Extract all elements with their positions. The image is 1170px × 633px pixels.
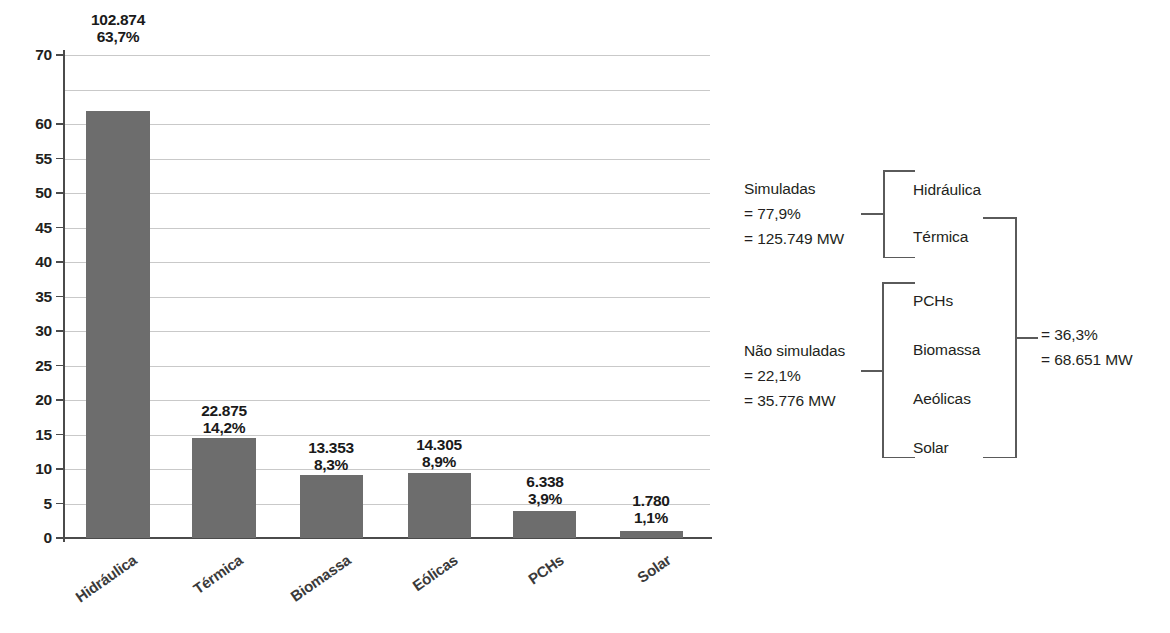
y-tick-label-0: 0: [44, 530, 52, 546]
category-label-hidraulica: Hidráulica: [24, 551, 140, 633]
leaf-label-termica: Térmica: [913, 228, 968, 246]
bar-biomassa[interactable]: [300, 475, 363, 539]
y-tick-label-5: 5: [44, 496, 52, 512]
bar-eolicas[interactable]: [408, 473, 471, 538]
bracket-total-arm-bottom: [983, 457, 1017, 459]
bracket-nao-simuladas-spine: [882, 282, 884, 458]
leaf-label-pchs: PCHs: [913, 292, 953, 310]
bar-value-pchs: 6.338: [483, 474, 607, 491]
bracket-diagram: Simuladas = 77,9% = 125.749 MW Hidráulic…: [730, 0, 1170, 633]
bar-value-hidraulica: 102.874: [56, 12, 180, 29]
bar-solar[interactable]: [620, 531, 683, 539]
bar-percent-solar: 1,1%: [589, 510, 713, 527]
y-tick-label-40: 40: [35, 254, 52, 270]
bar-value-solar: 1.780: [589, 493, 713, 510]
group-nao-simuladas-line-3: = 35.776 MW: [744, 388, 845, 413]
bar-percent-hidraulica: 63,7%: [56, 29, 180, 46]
bar-pchs[interactable]: [513, 511, 576, 539]
bar-value-eolicas: 14.305: [377, 437, 501, 454]
total-line-2: = 68.651 MW: [1041, 347, 1133, 372]
bar-value-biomassa: 13.353: [269, 440, 393, 457]
category-label-solar: Solar: [558, 551, 674, 633]
category-label-pchs: PCHs: [451, 551, 567, 633]
y-tick-label-20: 20: [35, 392, 52, 408]
y-tick-label-25: 25: [35, 358, 52, 374]
total-label: = 36,3% = 68.651 MW: [1041, 322, 1133, 372]
group-simuladas-line-1: Simuladas: [744, 176, 844, 201]
group-label-nao-simuladas: Não simuladas = 22,1% = 35.776 MW: [744, 338, 845, 413]
group-nao-simuladas-line-1: Não simuladas: [744, 338, 845, 363]
y-tick-label-30: 30: [35, 323, 52, 339]
bar-value-termica: 22.875: [162, 403, 286, 420]
bar-label-biomassa: 13.353 8,3%: [269, 440, 393, 473]
bracket-simuladas-spine: [883, 170, 885, 258]
leaf-label-solar: Solar: [913, 439, 949, 457]
bar-label-termica: 22.875 14,2%: [162, 403, 286, 436]
y-tick-label-10: 10: [35, 461, 52, 477]
y-tick-label-60: 60: [35, 116, 52, 132]
y-tick-label-15: 15: [35, 427, 52, 443]
category-label-termica: Térmica: [130, 551, 246, 633]
bar-label-eolicas: 14.305 8,9%: [377, 437, 501, 470]
category-label-biomassa: Biomassa: [238, 551, 354, 633]
bracket-nao-simuladas-stem: [861, 370, 883, 372]
bracket-simuladas-arm-top: [883, 170, 915, 172]
y-tick-label-55: 55: [35, 151, 52, 167]
bar-percent-biomassa: 8,3%: [269, 457, 393, 474]
bar-label-hidraulica: 102.874 63,7%: [56, 12, 180, 45]
leaf-label-aeolicas: Aeólicas: [913, 390, 971, 408]
bracket-nao-simuladas-arm-top: [882, 282, 915, 284]
bar-percent-eolicas: 8,9%: [377, 454, 501, 471]
bar-chart: 70 60 55 50 45 40 35: [0, 0, 730, 633]
bracket-simuladas-stem: [861, 213, 884, 215]
group-simuladas-line-3: = 125.749 MW: [744, 226, 844, 251]
y-tick-label-70: 70: [35, 47, 52, 63]
bar-percent-termica: 14,2%: [162, 420, 286, 437]
total-line-1: = 36,3%: [1041, 322, 1133, 347]
group-nao-simuladas-line-2: = 22,1%: [744, 363, 845, 388]
bar-hidraulica[interactable]: [86, 111, 150, 538]
bar-label-solar: 1.780 1,1%: [589, 493, 713, 526]
bracket-nao-simuladas-arm-bottom: [882, 457, 915, 459]
bar-termica[interactable]: [192, 438, 256, 538]
bracket-total-stem: [1016, 337, 1038, 339]
leaf-label-biomassa: Biomassa: [913, 341, 980, 359]
group-simuladas-line-2: = 77,9%: [744, 201, 844, 226]
figure-root: 70 60 55 50 45 40 35: [0, 0, 1170, 633]
y-tick-label-50: 50: [35, 185, 52, 201]
bracket-total-arm-top: [983, 217, 1017, 219]
y-tick-label-35: 35: [35, 289, 52, 305]
category-label-eolicas: Eólicas: [345, 551, 461, 633]
bracket-simuladas-arm-bottom: [883, 257, 915, 259]
leaf-label-hidraulica: Hidráulica: [913, 181, 981, 199]
group-label-simuladas: Simuladas = 77,9% = 125.749 MW: [744, 176, 844, 251]
y-tick-label-45: 45: [35, 220, 52, 236]
